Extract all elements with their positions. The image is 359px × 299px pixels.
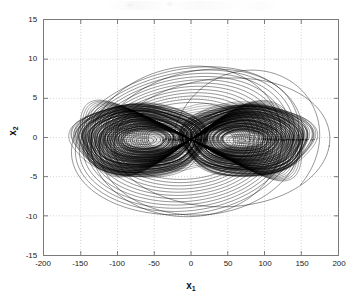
y-tick-label: -10 bbox=[9, 212, 37, 221]
y-tick-label: 15 bbox=[9, 15, 37, 24]
x-tick-label: 100 bbox=[245, 259, 285, 268]
x-axis-title: x1 bbox=[43, 275, 339, 293]
x-axis-title-subscript: 1 bbox=[192, 285, 196, 292]
matlab-figure: 15 10 5 0 -5 -10 -15 -200 -150 -100 -50 … bbox=[0, 0, 359, 299]
trajectory-curve bbox=[69, 66, 330, 217]
y-axis-title: x2 bbox=[2, 111, 20, 151]
x-tick-label: 0 bbox=[171, 259, 211, 268]
y-axis-title-subscript: 2 bbox=[12, 126, 19, 130]
x-tick-label: -100 bbox=[97, 259, 137, 268]
y-tick-label: 10 bbox=[9, 54, 37, 63]
y-tick-label: -5 bbox=[9, 172, 37, 181]
x-tick-label: -200 bbox=[23, 259, 63, 268]
y-axis-title-text: x bbox=[7, 130, 18, 136]
y-tick-label: 5 bbox=[9, 93, 37, 102]
x-tick-label: -150 bbox=[60, 259, 100, 268]
scan-artifact bbox=[108, 1, 276, 10]
plot-area bbox=[43, 19, 339, 256]
x-tick-label: 50 bbox=[208, 259, 248, 268]
x-tick-label: -50 bbox=[134, 259, 174, 268]
phase-portrait-plot bbox=[44, 20, 338, 255]
x-tick-label: 200 bbox=[319, 259, 359, 268]
x-tick-label: 150 bbox=[282, 259, 322, 268]
x-axis-title-text: x bbox=[186, 280, 192, 291]
